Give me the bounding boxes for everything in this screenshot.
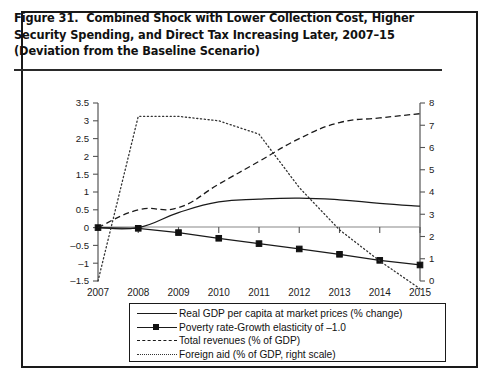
legend-label: Foreign aid (% of GDP, right scale) bbox=[179, 349, 336, 360]
figure-number: Figure 31. bbox=[14, 11, 78, 25]
chart-legend: Real GDP per capita at market prices (% … bbox=[129, 303, 446, 362]
title-divider bbox=[14, 69, 442, 71]
legend-swatch-line-icon bbox=[137, 308, 177, 320]
legend-swatch-dotted-icon bbox=[137, 348, 177, 360]
legend-item: Poverty rate-Growth elasticity of –1.0 bbox=[130, 321, 445, 335]
legend-item: Foreign aid (% of GDP, right scale) bbox=[130, 348, 445, 362]
page-title: Figure 31. Combined Shock with Lower Col… bbox=[14, 10, 446, 60]
legend-label: Poverty rate-Growth elasticity of –1.0 bbox=[179, 322, 346, 333]
legend-swatch-line-marker-icon bbox=[137, 321, 177, 333]
figure-title-block: Figure 31. Combined Shock with Lower Col… bbox=[14, 10, 446, 60]
legend-label: Real GDP per capita at market prices (% … bbox=[179, 308, 402, 319]
legend-item: Total revenues (% of GDP) bbox=[130, 334, 445, 348]
legend-item: Real GDP per capita at market prices (% … bbox=[130, 307, 445, 321]
legend-label: Total revenues (% of GDP) bbox=[179, 335, 300, 346]
legend-swatch-dashed-icon bbox=[137, 335, 177, 347]
